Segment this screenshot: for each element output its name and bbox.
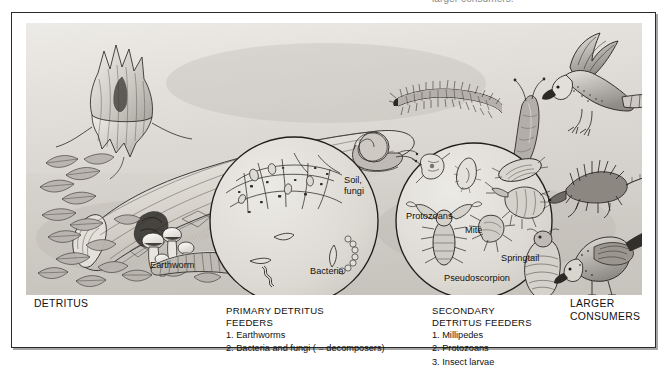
label-larger-consumers-line1: LARGER: [570, 298, 640, 311]
caption-primary-item-1: 1. Earthworms: [226, 329, 385, 342]
label-soil-fungi-line2: fungi: [344, 186, 364, 197]
label-mite: Mite: [465, 225, 482, 236]
caption-primary-detritus-feeders: PRIMARY DETRITUS FEEDERS 1. Earthworms 2…: [226, 305, 385, 356]
label-bacteria: Bacteria: [310, 266, 344, 277]
primary-feeders-magnifier-circle: [210, 137, 378, 295]
label-detritus: DETRITUS: [34, 298, 88, 311]
figure-plate: Earthworm Soil, fungi Bacteria Protozoan…: [11, 12, 656, 348]
label-pseudoscorpion: Pseudoscorpion: [444, 273, 510, 284]
caption-secondary-item-3: 3. Insect larvae: [432, 356, 532, 366]
caption-secondary-head-line1: SECONDARY: [432, 305, 532, 317]
label-earthworm: Earthworm: [150, 260, 194, 271]
label-soil-fungi-line1: Soil,: [344, 175, 364, 186]
label-soil-fungi: Soil, fungi: [344, 175, 364, 197]
caption-secondary-head-line2: DETRITUS FEEDERS: [432, 317, 532, 329]
label-larger-consumers-line2: CONSUMERS: [570, 311, 640, 324]
label-protozoans: Protozoans: [406, 211, 452, 222]
caption-primary-list: 1. Earthworms 2. Bacteria and fungi ( = …: [226, 329, 385, 355]
label-larger-consumers: LARGER CONSUMERS: [570, 298, 640, 323]
caption-primary-item-2: 2. Bacteria and fungi ( = decomposers): [226, 342, 385, 355]
caption-primary-head-line2: FEEDERS: [226, 317, 385, 329]
illustration-canvas: [26, 23, 642, 295]
top-running-caption: larger consumers.: [0, 0, 669, 9]
caption-secondary-detritus-feeders: SECONDARY DETRITUS FEEDERS 1. Millipedes…: [432, 305, 532, 366]
label-springtail: Springtail: [501, 253, 539, 264]
caption-secondary-list: 1. Millipedes 2. Protozoans 3. Insect la…: [432, 329, 532, 366]
caption-secondary-item-2: 2. Protozoans: [432, 342, 532, 355]
top-caption-text: larger consumers.: [432, 0, 514, 4]
caption-primary-head-line1: PRIMARY DETRITUS: [226, 305, 385, 317]
caption-secondary-item-1: 1. Millipedes: [432, 329, 532, 342]
